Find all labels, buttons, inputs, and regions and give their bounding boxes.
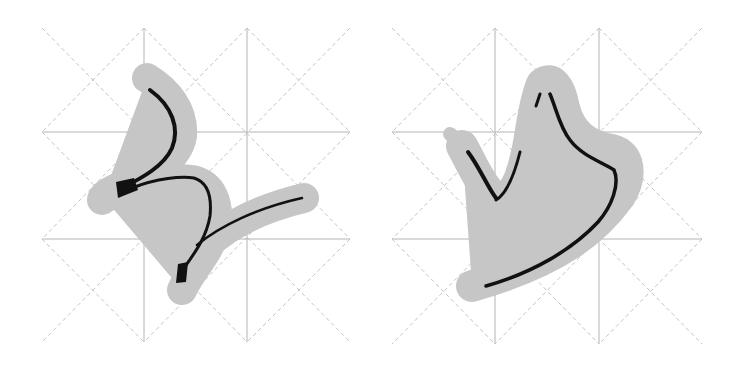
calligraphy-grid-right bbox=[392, 28, 702, 344]
practice-grid-left bbox=[42, 28, 350, 342]
stroke-halo-right bbox=[450, 81, 628, 286]
calligraphy-grid-left bbox=[42, 28, 350, 342]
practice-grid-right bbox=[392, 28, 702, 344]
